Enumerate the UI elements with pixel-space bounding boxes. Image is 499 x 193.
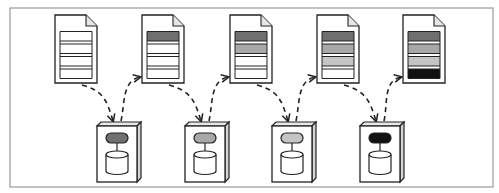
dashed-arrow [296,77,315,121]
dashed-arrow [169,85,201,121]
document-row [147,32,179,42]
document-row [235,69,267,79]
document-row [322,57,354,67]
document-row [60,69,92,79]
dashed-arrow [209,77,228,121]
document-row [408,57,440,67]
server-icon [272,122,316,182]
documents-layer [55,15,445,83]
dashed-arrow [121,77,140,121]
document-row [147,44,179,54]
dashed-arrow [384,77,401,121]
document-row [322,69,354,79]
dashed-arrow [82,85,113,121]
document-icon [403,15,445,83]
server-icon [185,122,229,182]
dashed-arrow [344,85,376,121]
pipeline-diagram [0,0,499,193]
diagram-canvas [0,0,499,193]
document-icon [317,15,359,83]
process-pill [369,133,391,143]
process-pill [194,133,216,143]
document-row [322,44,354,54]
document-row [60,44,92,54]
process-pill [106,133,128,143]
document-row [408,44,440,54]
document-row [235,57,267,67]
document-row [408,69,440,79]
process-pill [281,133,303,143]
document-row [147,69,179,79]
document-row [322,32,354,42]
document-icon [230,15,272,83]
document-row [235,44,267,54]
document-row [60,32,92,42]
document-row [408,32,440,42]
document-icon [55,15,97,83]
document-row [235,32,267,42]
document-icon [142,15,184,83]
server-icon [97,122,141,182]
servers-layer [97,122,404,182]
dashed-arrow [257,85,288,121]
server-icon [360,122,404,182]
document-row [60,57,92,67]
document-row [147,57,179,67]
